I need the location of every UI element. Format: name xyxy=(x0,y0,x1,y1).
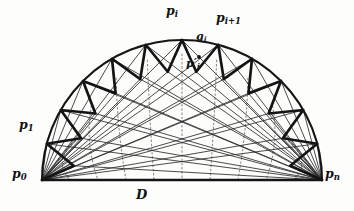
label-qi: qi xyxy=(196,31,207,44)
semicircle-diagram xyxy=(0,0,354,211)
dotted-arc xyxy=(116,78,126,180)
label-pi-prime: p′i xyxy=(186,57,200,71)
label-pi-plus-1: pi+1 xyxy=(216,12,241,26)
label-pn: pn xyxy=(325,168,340,182)
label-pi: pi xyxy=(166,5,178,19)
chord-from-pn xyxy=(47,144,322,180)
chord-from-p0 xyxy=(42,110,303,180)
chord-from-p0 xyxy=(42,144,317,180)
label-p1: p1 xyxy=(19,119,34,133)
label-D: D xyxy=(136,188,147,201)
chord-from-p0-inner xyxy=(42,79,224,180)
label-p0: p0 xyxy=(12,168,27,182)
dotted-arc xyxy=(238,78,248,180)
